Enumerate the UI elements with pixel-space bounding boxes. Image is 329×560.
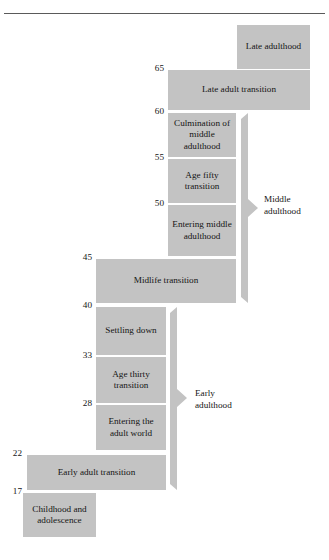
period-label-midlife-transition: Midlife transition <box>99 275 233 287</box>
period-box-entering-middle-adulthood: Entering middle adulthood <box>168 205 236 256</box>
period-label-early-adult-transition: Early adult transition <box>30 467 163 479</box>
period-box-early-adult-transition: Early adult transition <box>27 455 166 490</box>
period-box-late-adult-transition: Late adult transition <box>168 70 310 110</box>
bracket-early-adulthood <box>170 307 188 490</box>
period-box-childhood-and-adolescence: Childhood and adolescence <box>23 493 96 537</box>
age-tick-28: 28 <box>74 398 92 408</box>
age-tick-55: 55 <box>146 152 164 162</box>
era-label-middle-adulthood-text: Middle adulthood <box>264 194 314 217</box>
period-box-entering-the-adult-world: Entering the adult world <box>96 405 166 450</box>
period-box-age-thirty-transition: Age thirty transition <box>96 357 166 403</box>
era-label-early-adulthood: Early adulthood <box>195 388 245 411</box>
period-label-entering-the-adult-world: Entering the adult world <box>99 416 163 439</box>
period-label-entering-middle-adulthood: Entering middle adulthood <box>171 219 233 242</box>
top-divider-rule <box>4 13 325 14</box>
period-label-late-adulthood: Late adulthood <box>240 41 307 53</box>
age-tick-65: 65 <box>146 63 164 73</box>
period-label-age-thirty-transition: Age thirty transition <box>99 369 163 392</box>
age-tick-33: 33 <box>74 350 92 360</box>
levinson-seasons-of-life-diagram: Late adulthood Late adult transition Cul… <box>0 0 329 560</box>
period-box-age-fifty-transition: Age fifty transition <box>168 159 236 203</box>
era-label-middle-adulthood: Middle adulthood <box>264 194 314 217</box>
era-label-early-adulthood-text: Early adulthood <box>195 388 245 411</box>
age-tick-22: 22 <box>4 448 22 458</box>
period-label-childhood-and-adolescence: Childhood and adolescence <box>26 504 93 527</box>
period-box-settling-down: Settling down <box>96 307 166 355</box>
period-label-settling-down: Settling down <box>99 325 163 337</box>
period-label-late-adult-transition: Late adult transition <box>171 84 307 96</box>
period-label-culmination-of-middle-adulthood: Culmination of middle adulthood <box>171 118 233 153</box>
age-tick-40: 40 <box>74 300 92 310</box>
period-label-age-fifty-transition: Age fifty transition <box>171 170 233 193</box>
age-tick-60: 60 <box>146 106 164 116</box>
age-tick-45: 45 <box>74 252 92 262</box>
age-tick-50: 50 <box>146 198 164 208</box>
period-box-midlife-transition: Midlife transition <box>96 259 236 303</box>
period-box-late-adulthood: Late adulthood <box>237 25 310 69</box>
age-tick-17: 17 <box>4 486 22 496</box>
bracket-middle-adulthood <box>241 113 259 303</box>
period-box-culmination-of-middle-adulthood: Culmination of middle adulthood <box>168 113 236 157</box>
